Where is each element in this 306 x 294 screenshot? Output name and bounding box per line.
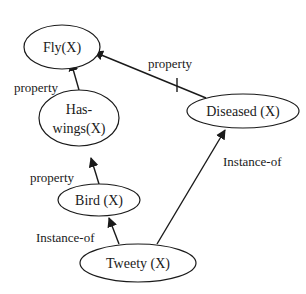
node-label: Tweety (X): [106, 256, 170, 272]
semantic-network-diagram: Fly(X)Has-wings(X)Diseased (X)Bird (X)Tw…: [0, 0, 306, 294]
node-label: Diseased (X): [206, 104, 280, 120]
edge-label: Instance-of: [223, 154, 282, 169]
node-fly: Fly(X): [24, 25, 100, 69]
edge-label: property: [14, 80, 59, 95]
edge-label: property: [148, 56, 193, 71]
node-label: Fly(X): [43, 40, 81, 56]
edge-label: property: [30, 170, 75, 185]
edge-tweety-to-diseased: [157, 130, 225, 244]
edge-label: Instance-of: [36, 230, 95, 245]
edge-tweety-to-bird: [109, 218, 119, 244]
edge-bird-to-haswings: [91, 158, 99, 184]
node-ellipse: [39, 90, 119, 146]
node-diseased: Diseased (X): [187, 94, 299, 128]
node-label: Has-: [66, 102, 93, 117]
node-bird: Bird (X): [58, 184, 140, 216]
node-tweety: Tweety (X): [80, 244, 196, 282]
node-label: wings(X): [53, 121, 106, 137]
node-label: Bird (X): [75, 193, 123, 209]
node-haswings: Has-wings(X): [39, 90, 119, 146]
